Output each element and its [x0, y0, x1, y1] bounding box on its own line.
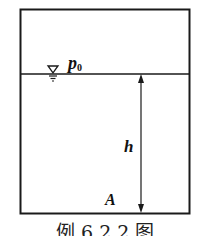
- tank-drawing: [0, 0, 198, 236]
- depth-label: h: [124, 138, 133, 155]
- tank-diagram: p0 h A 例 6.2.2 图: [0, 0, 198, 236]
- figure-caption: 例 6.2.2 图: [56, 223, 154, 236]
- depth-arrow-icon: [138, 74, 144, 213]
- point-label: A: [105, 192, 116, 208]
- tank-outline: [21, 10, 190, 214]
- pressure-label: p0: [68, 54, 82, 73]
- pressure-subscript: 0: [77, 62, 82, 73]
